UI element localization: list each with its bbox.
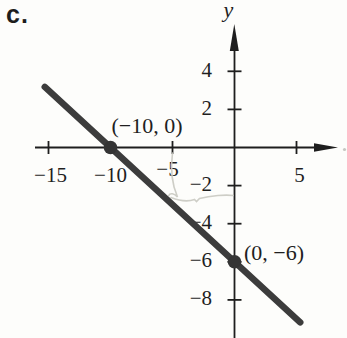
point-dot: [104, 141, 118, 155]
x-tick-label: 5: [294, 163, 305, 187]
point-dot: [228, 255, 242, 269]
point-label: (−10, 0): [111, 113, 182, 138]
figure-part-label: c.: [6, 0, 29, 29]
x-tick-label: −15: [34, 163, 67, 187]
y-tick-label: 2: [202, 96, 213, 120]
x-axis-arrowhead-icon: [314, 143, 338, 152]
y-axis-arrowhead-icon: [230, 24, 239, 51]
y-tick-label: −6: [190, 248, 212, 272]
y-axis-title: y: [222, 0, 234, 22]
x-tick-label: −10: [94, 163, 127, 187]
y-tick-label: 4: [202, 58, 213, 82]
scan-speck: [343, 148, 346, 151]
point-label: (0, −6): [244, 240, 304, 265]
textbook-figure: c. y−15−10−5542−2−4−6−8(−10, 0)(0, −6): [0, 0, 347, 338]
y-tick-label: −2: [190, 172, 212, 196]
coordinate-plane: y−15−10−5542−2−4−6−8(−10, 0)(0, −6): [0, 0, 347, 338]
x-tick-label: −5: [156, 157, 178, 181]
y-tick-label: −8: [190, 286, 212, 310]
